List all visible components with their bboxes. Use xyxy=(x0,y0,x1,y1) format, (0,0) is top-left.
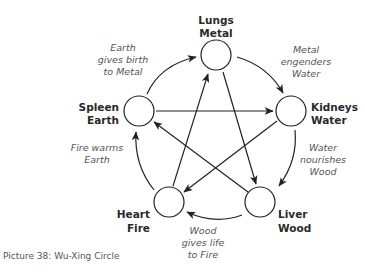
arrow-wood-controls-earth xyxy=(154,122,248,192)
arrow-wood-to-fire xyxy=(187,212,242,219)
label-wood-to-fire: Wood gives life to Fire xyxy=(182,225,225,260)
figure-caption: Picture 38: Wu-Xing Circle xyxy=(3,251,119,261)
svg-text:Water: Water xyxy=(309,142,338,153)
label-earth-to-metal: Earth gives birth to Metal xyxy=(98,42,148,77)
svg-text:Wood: Wood xyxy=(189,225,217,236)
node-lungs-metal xyxy=(201,40,231,70)
label-spleen-element: Earth xyxy=(87,114,119,126)
svg-text:Fire warms: Fire warms xyxy=(71,142,124,153)
arrow-fire-to-earth xyxy=(136,132,154,190)
label-liver-element: Wood xyxy=(278,222,311,234)
label-spleen-organ: Spleen xyxy=(79,101,119,113)
arrow-water-to-wood xyxy=(279,130,295,186)
label-heart-element: Fire xyxy=(127,222,150,234)
svg-text:to Fire: to Fire xyxy=(188,249,219,260)
svg-text:Earth: Earth xyxy=(110,42,135,53)
svg-text:engenders: engenders xyxy=(281,56,332,67)
controlling-cycle xyxy=(154,72,277,192)
label-fire-to-earth: Fire warms Earth xyxy=(71,142,124,165)
node-spleen-earth xyxy=(124,96,154,126)
label-kidneys-organ: Kidneys xyxy=(311,101,358,113)
label-water-to-wood: Water nourishes Wood xyxy=(300,142,346,177)
arrow-fire-controls-metal xyxy=(173,74,208,186)
svg-text:nourishes: nourishes xyxy=(300,154,346,165)
svg-text:Water: Water xyxy=(292,68,321,79)
label-metal-to-water: Metal engenders Water xyxy=(281,44,332,79)
label-lungs-element: Metal xyxy=(199,27,232,39)
label-lungs-organ: Lungs xyxy=(198,14,233,26)
svg-text:Metal: Metal xyxy=(293,44,320,55)
arrow-metal-to-water xyxy=(237,57,283,93)
svg-text:gives birth: gives birth xyxy=(98,54,148,65)
label-heart-organ: Heart xyxy=(117,208,150,220)
arrow-metal-controls-wood xyxy=(223,72,256,184)
arrow-water-controls-fire xyxy=(184,121,277,192)
svg-text:to Metal: to Metal xyxy=(104,66,143,77)
node-heart-fire xyxy=(154,187,184,217)
node-kidneys-water xyxy=(276,96,306,126)
label-liver-organ: Liver xyxy=(278,208,308,220)
node-liver-wood xyxy=(245,187,275,217)
arrow-earth-to-metal xyxy=(147,57,196,94)
svg-text:Wood: Wood xyxy=(309,166,337,177)
wu-xing-diagram: Lungs Metal Kidneys Water Liver Wood Hea… xyxy=(0,0,365,272)
svg-text:gives life: gives life xyxy=(182,237,225,248)
svg-text:Earth: Earth xyxy=(84,154,109,165)
label-kidneys-element: Water xyxy=(311,114,347,126)
